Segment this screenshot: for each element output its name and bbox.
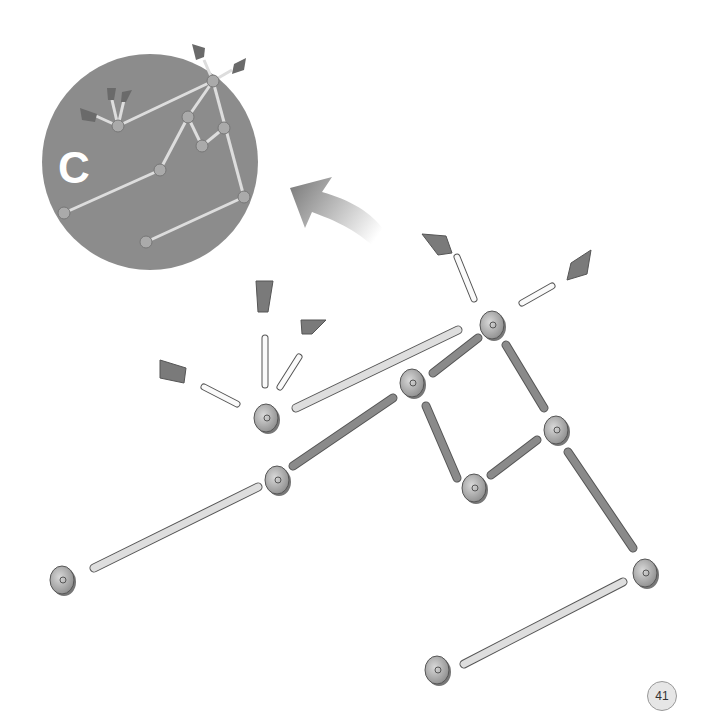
flag-piece <box>256 281 273 312</box>
flag-piece <box>422 234 452 255</box>
flag-piece <box>301 320 326 334</box>
hub-connector <box>480 311 506 341</box>
flags-layer <box>160 234 591 383</box>
step-label: C <box>58 143 90 193</box>
rods-layer <box>94 257 633 664</box>
flag-piece <box>160 360 186 383</box>
hub-connector <box>50 566 76 596</box>
hub-connector <box>462 474 488 504</box>
hub-connector <box>425 656 451 686</box>
hubs-layer <box>50 311 659 686</box>
hub-connector <box>400 369 426 399</box>
hub-connector <box>633 559 659 589</box>
assembly-diagram <box>0 0 705 721</box>
direction-arrow <box>290 177 385 258</box>
hub-connector <box>544 416 570 446</box>
page-number: 41 <box>647 681 677 711</box>
hub-connector <box>254 404 280 434</box>
flag-piece <box>567 250 591 280</box>
page-number-text: 41 <box>655 689 668 703</box>
hub-connector <box>265 466 291 496</box>
